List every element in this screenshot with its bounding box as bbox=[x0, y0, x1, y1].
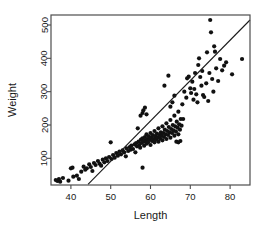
data-point bbox=[79, 170, 83, 174]
data-point bbox=[202, 95, 206, 99]
data-point bbox=[133, 150, 137, 154]
data-point bbox=[187, 75, 191, 79]
data-point bbox=[211, 90, 215, 94]
data-point bbox=[93, 163, 97, 167]
data-point bbox=[166, 74, 170, 78]
y-tick-label-200: 200 bbox=[39, 117, 50, 133]
data-point bbox=[122, 150, 126, 154]
x-tick-label-60: 60 bbox=[145, 191, 156, 202]
data-point bbox=[218, 57, 222, 61]
data-point bbox=[180, 102, 184, 106]
data-point bbox=[184, 96, 188, 100]
data-point bbox=[99, 164, 103, 168]
data-point bbox=[214, 66, 218, 70]
y-axis-title: Weight bbox=[6, 83, 18, 117]
data-point bbox=[212, 44, 216, 48]
data-point bbox=[58, 180, 62, 184]
data-point bbox=[198, 75, 202, 79]
data-point bbox=[178, 128, 182, 132]
data-point bbox=[199, 84, 203, 88]
data-point bbox=[189, 91, 193, 95]
data-point bbox=[230, 72, 234, 76]
data-point bbox=[176, 132, 180, 136]
x-tick-label-70: 70 bbox=[185, 191, 196, 202]
data-point bbox=[164, 137, 168, 141]
y-tick-label-500: 500 bbox=[39, 17, 50, 33]
data-point bbox=[172, 114, 176, 118]
data-point bbox=[85, 166, 89, 170]
data-point bbox=[172, 134, 176, 138]
data-point bbox=[194, 92, 198, 96]
x-tick-label-80: 80 bbox=[225, 191, 236, 202]
x-tick-label-50: 50 bbox=[105, 191, 116, 202]
data-point bbox=[162, 84, 166, 88]
data-point bbox=[109, 140, 113, 144]
data-point bbox=[196, 63, 200, 67]
data-point bbox=[176, 110, 180, 114]
data-point bbox=[195, 100, 199, 104]
data-point bbox=[182, 90, 186, 94]
data-point bbox=[77, 177, 81, 181]
data-point bbox=[148, 143, 152, 147]
data-point bbox=[143, 106, 147, 110]
data-point bbox=[197, 56, 201, 60]
y-tick-label-400: 400 bbox=[39, 50, 50, 66]
data-point bbox=[168, 136, 172, 140]
data-point bbox=[209, 30, 213, 34]
data-point bbox=[144, 112, 148, 116]
data-point bbox=[124, 154, 128, 158]
data-point bbox=[206, 99, 210, 103]
data-point bbox=[89, 165, 93, 169]
data-point bbox=[224, 60, 228, 64]
data-point bbox=[210, 77, 214, 81]
scatter-plot-figure: 100200300400500 4050607080 Weight Length bbox=[0, 0, 265, 232]
data-point bbox=[192, 87, 196, 91]
data-point bbox=[168, 105, 172, 109]
data-point bbox=[240, 57, 244, 61]
data-point bbox=[207, 71, 211, 75]
data-point bbox=[179, 124, 183, 128]
data-point bbox=[220, 68, 224, 72]
y-tick-label-100: 100 bbox=[39, 150, 50, 166]
data-point bbox=[191, 98, 195, 102]
data-point bbox=[90, 169, 94, 173]
data-point bbox=[213, 50, 217, 54]
data-point bbox=[188, 86, 192, 90]
x-tick-label-40: 40 bbox=[66, 191, 77, 202]
x-axis-title: Length bbox=[134, 209, 168, 221]
data-point bbox=[140, 166, 144, 170]
data-point bbox=[138, 146, 142, 150]
data-point bbox=[156, 126, 160, 130]
plot-canvas: 100200300400500 4050607080 Weight Length bbox=[0, 0, 265, 232]
data-point bbox=[216, 79, 220, 83]
data-point bbox=[181, 117, 185, 121]
data-point bbox=[70, 166, 74, 170]
data-point bbox=[205, 50, 209, 54]
data-point bbox=[71, 175, 75, 179]
data-point bbox=[178, 139, 182, 143]
y-tick-label-300: 300 bbox=[39, 84, 50, 100]
data-point bbox=[136, 126, 140, 130]
data-point bbox=[61, 176, 65, 180]
data-point bbox=[66, 179, 70, 183]
data-point bbox=[164, 121, 168, 125]
data-point bbox=[208, 18, 212, 22]
data-point bbox=[204, 81, 208, 85]
data-point bbox=[168, 118, 172, 122]
